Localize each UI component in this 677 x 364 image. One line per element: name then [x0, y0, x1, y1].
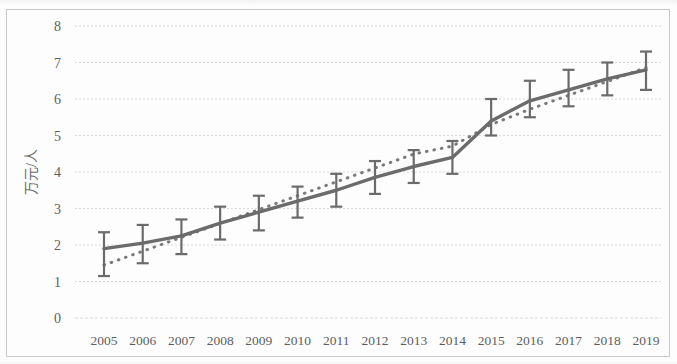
y-axis-tick-labels: 876543210 [54, 19, 61, 326]
y-tick-label: 1 [54, 275, 61, 290]
x-tick-label: 2015 [478, 333, 505, 348]
chart-container: 876543210 200520062007200820092010201120… [0, 0, 677, 364]
y-tick-label: 3 [54, 202, 61, 217]
y-tick-label: 7 [54, 56, 61, 71]
x-tick-label: 2011 [323, 333, 350, 348]
y-tick-label: 5 [54, 129, 61, 144]
data-line [104, 70, 646, 249]
x-tick-label: 2010 [284, 333, 311, 348]
y-tick-label: 8 [54, 19, 61, 34]
y-tick-label: 0 [54, 311, 61, 326]
x-tick-label: 2008 [207, 333, 234, 348]
x-tick-label: 2007 [168, 333, 195, 348]
x-tick-label: 2019 [633, 333, 660, 348]
x-tick-label: 2006 [129, 333, 156, 348]
error-bars-group [98, 52, 652, 276]
y-tick-label: 6 [54, 92, 61, 107]
x-tick-label: 2016 [516, 333, 543, 348]
x-tick-label: 2009 [245, 333, 272, 348]
x-tick-label: 2013 [400, 333, 427, 348]
x-tick-label: 2012 [362, 333, 389, 348]
y-axis-title: 万元/人 [24, 149, 39, 195]
x-tick-label: 2014 [439, 333, 466, 348]
x-tick-label: 2017 [555, 333, 582, 348]
y-tick-label: 4 [54, 165, 61, 180]
x-axis-tick-labels: 2005200620072008200920102011201220132014… [91, 333, 660, 348]
y-tick-label: 2 [54, 238, 61, 253]
line-chart-plot: 876543210 200520062007200820092010201120… [0, 0, 677, 364]
x-tick-label: 2005 [91, 333, 118, 348]
data-line-solid [104, 70, 646, 249]
x-tick-label: 2018 [594, 333, 621, 348]
